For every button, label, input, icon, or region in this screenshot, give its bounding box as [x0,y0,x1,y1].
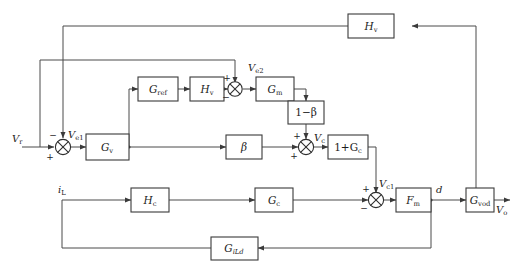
svg-text:Vo: Vo [496,204,507,217]
summer-vc-sign-left: + [290,151,298,161]
block-gild-label: G [224,242,232,254]
block-one-plus-gc-sub: c [358,147,362,155]
svg-text:Vc: Vc [314,132,325,145]
summer-inner-sign-top: + [362,184,370,194]
block-hv-top-sub: v [373,26,378,34]
block-gref[interactable]: Gref [138,77,178,101]
signal-label-vr: Vr [12,133,23,146]
block-gvod-sub: vod [477,200,491,208]
block-gild[interactable]: GiLd [211,237,258,260]
signal-label-vo: Vo [496,204,507,217]
signal-label-d: d [436,184,442,195]
svg-text:Vc1: Vc1 [379,178,394,191]
summer-mid-sign-left: − [222,92,230,102]
signal-label-ve2: Ve2 [248,62,264,75]
block-gv-sub: v [108,147,113,155]
block-fm-sub: m [413,200,420,208]
svg-text:Ve2: Ve2 [248,62,264,75]
block-gm-sub: m [276,89,283,97]
block-gm[interactable]: Gm [256,77,294,101]
block-beta[interactable]: β [226,135,262,159]
signal-label-vc: Vc [314,132,325,145]
block-gc-sub: c [276,200,280,208]
svg-text:Vr: Vr [12,133,23,146]
diagram-svg: Hv Gref Hv Gm 1−β [0,0,516,269]
summing-junction-vc[interactable]: + + [290,131,313,161]
svg-text:1+Gc: 1+Gc [334,141,362,155]
block-gild-sub: iLd [233,248,245,256]
summer-vc-sign-top: + [293,131,301,141]
block-gvod-label: G [470,194,478,206]
block-hc[interactable]: Hc [131,188,169,212]
block-one-minus-beta[interactable]: 1−β [288,101,324,124]
block-gv-label: G [101,141,109,153]
signal-label-ve1: Ve1 [68,129,84,142]
wire-hv-top-feedback [63,26,476,200]
block-gc[interactable]: Gc [255,188,293,212]
summer-mid-sign-top: + [223,73,231,83]
block-gvod[interactable]: Gvod [466,188,494,212]
summing-junction-mid[interactable]: − + [222,73,242,102]
block-gc-label: G [268,194,276,206]
block-one-plus-gc-label: 1+G [334,141,358,153]
svg-text:1−β: 1−β [295,106,317,118]
block-fm[interactable]: Fm [396,188,431,212]
block-gm-label: G [268,83,276,95]
summing-junction-main[interactable]: + − [46,130,70,162]
block-gref-sub: ref [157,89,167,97]
svg-text:d: d [436,184,442,195]
block-hc-sub: c [153,200,157,208]
signal-label-vc1: Vc1 [379,178,394,191]
block-gv[interactable]: Gv [86,134,129,160]
svg-text:β: β [240,141,247,153]
summer-main-sign-top: − [49,130,57,140]
wire-gm-to-onebeta [294,89,306,101]
summer-main-sign-left: + [46,152,54,162]
block-hv-mid-sub: v [209,89,214,97]
block-diagram-canvas: Hv Gref Hv Gm 1−β [0,0,516,269]
signal-label-il: iL [58,184,66,197]
block-hv-mid[interactable]: Hv [190,77,224,101]
block-one-plus-gc[interactable]: 1+Gc [328,135,368,159]
block-beta-label: β [240,141,247,153]
svg-text:Ve1: Ve1 [68,129,84,142]
svg-text:iL: iL [58,184,66,197]
block-hv-top[interactable]: Hv [348,14,394,38]
block-gref-label: G [149,83,157,95]
block-one-minus-beta-label: 1−β [295,106,317,118]
summer-inner-sign-left: − [360,203,368,213]
